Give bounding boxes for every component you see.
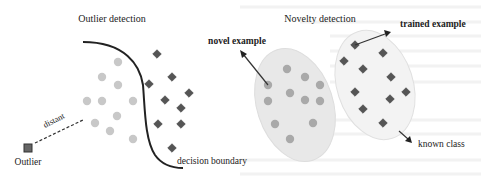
inlier-point-icon bbox=[113, 112, 121, 120]
inlier-point-icon bbox=[91, 119, 99, 127]
distant-label: distant bbox=[41, 110, 66, 129]
trained-example-label: trained example bbox=[400, 19, 466, 29]
inlier-point-icon bbox=[114, 58, 122, 66]
known-class-label: known class bbox=[418, 139, 465, 149]
novel-point-icon bbox=[301, 73, 309, 81]
inlier-point-icon bbox=[129, 135, 137, 143]
class-point-icon bbox=[168, 144, 177, 153]
known-class-ellipse bbox=[322, 20, 429, 150]
novel-point-icon bbox=[301, 96, 309, 104]
class-point-icon bbox=[153, 50, 162, 59]
known-class-diamonds bbox=[145, 50, 194, 153]
known-class-arrow-icon bbox=[399, 131, 412, 143]
novel-point-icon bbox=[316, 81, 324, 89]
novel-point-icon bbox=[271, 120, 279, 128]
class-point-icon bbox=[168, 73, 177, 82]
detection-diagram: Outlier detection distant Outlier decisi… bbox=[0, 0, 481, 179]
novel-point-icon bbox=[316, 97, 324, 105]
novel-point-icon bbox=[283, 65, 291, 73]
inlier-point-icon bbox=[106, 127, 114, 135]
class-point-icon bbox=[177, 120, 186, 129]
novel-point-icon bbox=[264, 97, 272, 105]
class-point-icon bbox=[185, 89, 194, 98]
outlier-panel-title: Outlier detection bbox=[78, 13, 145, 24]
novelty-panel-title: Novelty detection bbox=[284, 13, 355, 24]
class-point-icon bbox=[154, 120, 163, 129]
inlier-point-icon bbox=[83, 97, 91, 105]
inlier-circles bbox=[83, 58, 137, 143]
novel-point-icon bbox=[286, 135, 294, 143]
novel-examples-ellipse bbox=[241, 38, 349, 172]
inlier-point-icon bbox=[98, 97, 106, 105]
outlier-square-icon bbox=[24, 144, 32, 152]
novel-point-icon bbox=[286, 89, 294, 97]
inlier-point-icon bbox=[98, 73, 106, 81]
class-point-icon bbox=[177, 104, 186, 113]
inlier-point-icon bbox=[129, 97, 137, 105]
outlier-label: Outlier bbox=[15, 157, 43, 167]
novel-point-icon bbox=[309, 119, 317, 127]
inlier-point-icon bbox=[114, 81, 122, 89]
class-point-icon bbox=[161, 96, 170, 105]
decision-boundary-label: decision boundary bbox=[177, 156, 247, 166]
novelty-panel: Novelty detection novel example trained … bbox=[208, 13, 466, 172]
class-point-icon bbox=[145, 80, 154, 89]
novel-example-label: novel example bbox=[208, 36, 266, 46]
